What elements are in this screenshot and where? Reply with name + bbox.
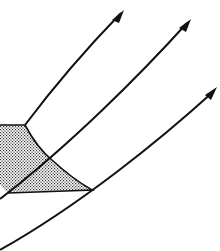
curved-arrows-diagram [0,0,220,251]
stippled-region [0,125,92,193]
curve-arrow-left [25,13,121,125]
